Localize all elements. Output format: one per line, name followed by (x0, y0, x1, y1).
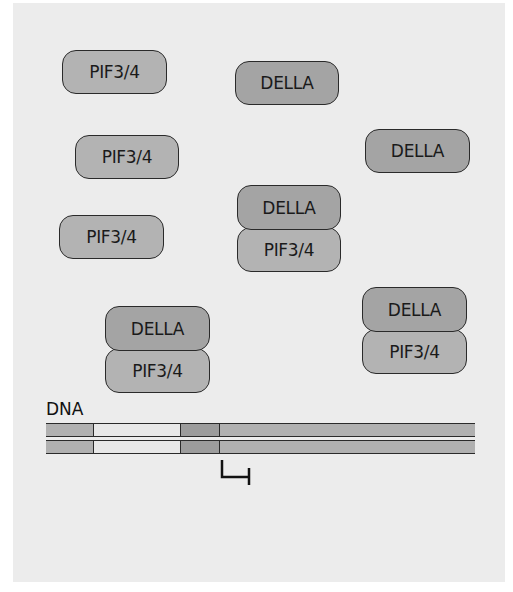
complex-pif3-4-protein: PIF3/4 (237, 227, 341, 272)
dna-segment-promoter-core (180, 424, 219, 436)
dna-strand-bottom (46, 440, 475, 454)
pif3-4-protein: PIF3/4 (62, 50, 167, 94)
dna-label: DNA (46, 399, 83, 419)
dna-segment-promoter-core (180, 441, 219, 453)
dna-segment-flank-left (46, 441, 93, 453)
complex-della-protein: DELLA (105, 306, 210, 351)
dna-segment-gene-body (219, 424, 475, 436)
complex-pif3-4-protein: PIF3/4 (362, 329, 467, 374)
pif3-4-protein: PIF3/4 (75, 135, 179, 179)
transcription-start-arrow-icon (218, 456, 258, 490)
dna-segment-binding-site (93, 441, 180, 453)
complex-pif3-4-protein: PIF3/4 (105, 348, 210, 393)
dna-strand-top (46, 423, 475, 437)
complex-della-protein: DELLA (237, 185, 341, 230)
dna-segment-flank-left (46, 424, 93, 436)
complex-della-protein: DELLA (362, 287, 467, 332)
della-protein: DELLA (365, 129, 470, 173)
pif3-4-protein: PIF3/4 (59, 215, 164, 259)
dna-segment-binding-site (93, 424, 180, 436)
della-protein: DELLA (235, 61, 339, 105)
dna-segment-gene-body (219, 441, 475, 453)
